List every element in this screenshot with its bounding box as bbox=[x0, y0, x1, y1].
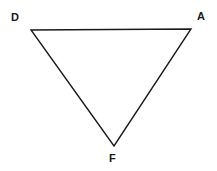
vertex-label-a: A bbox=[197, 11, 205, 22]
triangle-figure: D A F bbox=[0, 0, 217, 171]
vertex-label-f: F bbox=[109, 153, 116, 164]
triangle-drawing-canvas bbox=[0, 0, 217, 171]
triangle-shape bbox=[31, 29, 191, 146]
vertex-label-d: D bbox=[11, 12, 19, 23]
